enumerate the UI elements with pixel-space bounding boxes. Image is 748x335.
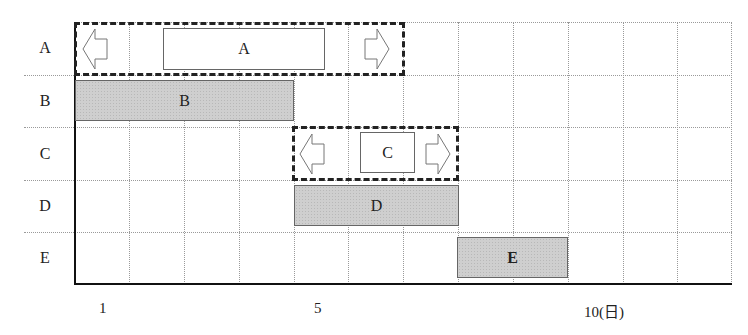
- task-label-d: D: [371, 197, 383, 215]
- grid-vline: [568, 22, 569, 284]
- row-label-e: E: [30, 249, 60, 267]
- row-label-a: A: [30, 39, 60, 57]
- grid-hline: [24, 232, 732, 233]
- task-bar-c: C: [360, 132, 415, 173]
- task-bar-e: E: [457, 237, 568, 278]
- arrow-left-icon: [299, 133, 325, 175]
- x-tick-label-1: 1: [99, 300, 107, 317]
- x-axis: [74, 283, 732, 285]
- x-tick-label-5: 5: [314, 300, 322, 317]
- row-label-b: B: [30, 92, 60, 110]
- grid-vline: [731, 22, 732, 284]
- task-bar-a: A: [163, 28, 325, 70]
- x-tick-label-10: 10(日): [584, 300, 624, 321]
- grid-vline: [623, 22, 624, 284]
- task-label-b: B: [179, 92, 190, 110]
- arrow-left-icon: [82, 28, 108, 70]
- task-label-c: C: [382, 144, 393, 162]
- grid-vline: [677, 22, 678, 284]
- task-bar-b: B: [75, 80, 294, 121]
- task-label-e: E: [507, 249, 518, 267]
- row-label-d: D: [30, 197, 60, 215]
- arrow-right-icon: [425, 133, 451, 175]
- arrow-right-icon: [364, 28, 390, 70]
- task-bar-d: D: [294, 185, 459, 226]
- row-label-c: C: [30, 145, 60, 163]
- task-label-a: A: [238, 40, 250, 58]
